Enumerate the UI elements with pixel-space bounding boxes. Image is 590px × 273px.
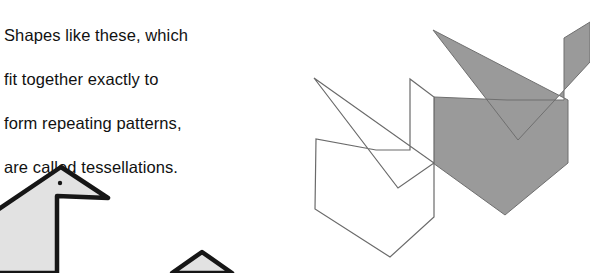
- gray-tessellation-tile: [433, 22, 590, 215]
- caption-line-2: fit together exactly to: [4, 68, 294, 90]
- caption-line-4: are called tessellations.: [4, 156, 294, 178]
- white-tessellation-tile: [314, 78, 434, 257]
- bird-tile-small: [172, 252, 232, 273]
- caption-line-1: Shapes like these, which: [4, 24, 294, 46]
- caption-text: Shapes like these, which fit together ex…: [4, 2, 294, 200]
- figure-page: Shapes like these, which fit together ex…: [0, 0, 590, 273]
- caption-line-3: form repeating patterns,: [4, 112, 294, 134]
